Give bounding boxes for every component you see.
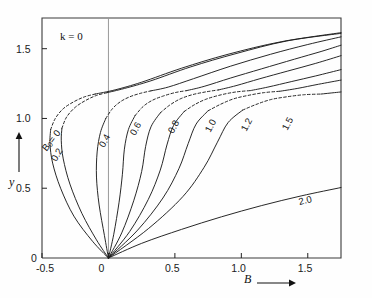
x-tick-label: 1.0 (231, 262, 246, 274)
y-tick-label: 1.0 (16, 112, 31, 124)
curve-0.4 (96, 37, 341, 258)
x-axis-label: B (244, 272, 251, 287)
data-curves (50, 33, 341, 258)
x-tick-label: 0 (98, 262, 104, 274)
axis-ticks (42, 49, 308, 258)
curve-0.6 (108, 45, 341, 258)
curve-1.5 (108, 92, 341, 258)
x-tick-label: 1.5 (298, 262, 313, 274)
plot-frame (42, 18, 341, 258)
curve-B0 (50, 33, 341, 258)
y-axis-arrow-icon (13, 132, 25, 174)
x-tick-label: 0.5 (165, 262, 180, 274)
y-tick-label: 0.5 (16, 182, 31, 194)
parameter-annotation: k = 0 (60, 30, 83, 42)
y-tick-label: 1.5 (16, 43, 31, 55)
x-tick-label: -0.5 (36, 262, 54, 274)
y-tick-label: 0 (31, 252, 37, 264)
figure-container: y B k = 0 -0.500.51.01.500.51.01.5 B0= 0… (0, 0, 372, 298)
curve-0.8 (108, 56, 341, 258)
x-axis-arrow-icon (255, 277, 297, 289)
y-axis-label: y (9, 175, 14, 190)
